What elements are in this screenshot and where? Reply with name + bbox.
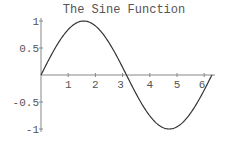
x-tick-label: 5 [174, 79, 181, 91]
y-tick-label: 0.5 [19, 43, 39, 55]
y-tick-label: -0.5 [13, 97, 39, 109]
sine-chart: The Sine Function 1 2 3 4 5 6 1 0.5 -0.5… [0, 0, 226, 143]
x-tick-label: 4 [146, 79, 153, 91]
chart-title: The Sine Function [63, 3, 185, 17]
x-tick-label: 3 [117, 79, 124, 91]
y-tick-label: -1 [26, 124, 40, 136]
x-tick-labels: 1 2 3 4 5 6 [65, 79, 205, 91]
x-tick-label: 1 [65, 79, 72, 91]
x-tick-label: 2 [92, 79, 99, 91]
y-tick-labels: 1 0.5 -0.5 -1 [13, 16, 40, 136]
y-tick-label: 1 [32, 16, 39, 28]
